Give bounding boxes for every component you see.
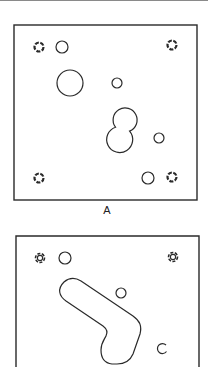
- plate-diagram: [0, 0, 208, 367]
- fiducial-icon: [35, 41, 177, 183]
- hole-small: [154, 133, 164, 143]
- fiducial-icon: [36, 253, 178, 263]
- panel-a: [14, 25, 197, 200]
- hole-small: [56, 41, 68, 53]
- hole-small: [116, 288, 126, 298]
- open-arc: [157, 344, 166, 354]
- hole-large: [57, 70, 83, 96]
- hole-small: [112, 78, 122, 88]
- hole-small: [59, 252, 71, 264]
- panel-b: [16, 236, 199, 367]
- fiducial-center-icon: [37, 254, 175, 260]
- panel-a-label: A: [103, 204, 110, 216]
- boomerang-slot: [60, 279, 141, 365]
- double-hole: [107, 108, 137, 153]
- hole-small: [142, 172, 154, 184]
